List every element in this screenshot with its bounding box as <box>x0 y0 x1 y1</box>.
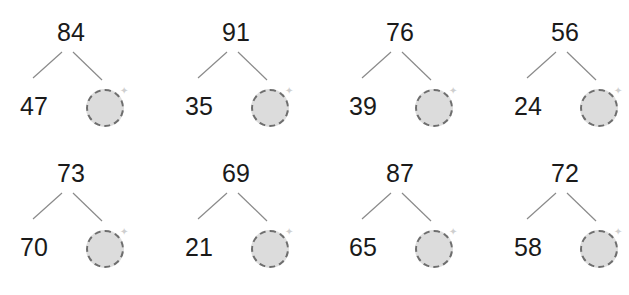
sparkle-icon: ✦ <box>120 227 128 237</box>
known-part-number: 47 <box>16 92 52 120</box>
number-bond-1: 84 47 ✦ <box>4 2 144 132</box>
whole-number: 91 <box>216 18 256 46</box>
known-part-number: 24 <box>510 92 546 120</box>
whole-number: 84 <box>51 18 91 46</box>
number-bond-2: 91 35 ✦ <box>169 2 309 132</box>
known-part-number: 65 <box>345 233 381 261</box>
known-part-number: 21 <box>181 233 217 261</box>
whole-number: 56 <box>545 18 585 46</box>
number-bond-7: 87 65 ✦ <box>333 143 473 273</box>
whole-number: 73 <box>51 159 91 187</box>
sparkle-icon: ✦ <box>614 227 622 237</box>
whole-number: 87 <box>380 159 420 187</box>
known-part-number: 35 <box>181 92 217 120</box>
number-bond-6: 69 21 ✦ <box>169 143 309 273</box>
whole-number: 76 <box>380 18 420 46</box>
whole-number: 69 <box>216 159 256 187</box>
known-part-number: 39 <box>345 92 381 120</box>
sparkle-icon: ✦ <box>120 86 128 96</box>
known-part-number: 58 <box>510 233 546 261</box>
sparkle-icon: ✦ <box>614 86 622 96</box>
missing-part-answer-circle[interactable]: ✦ <box>251 230 289 268</box>
known-part-number: 70 <box>16 233 52 261</box>
whole-number: 72 <box>545 159 585 187</box>
missing-part-answer-circle[interactable]: ✦ <box>251 89 289 127</box>
sparkle-icon: ✦ <box>285 86 293 96</box>
missing-part-answer-circle[interactable]: ✦ <box>415 230 453 268</box>
missing-part-answer-circle[interactable]: ✦ <box>580 230 618 268</box>
sparkle-icon: ✦ <box>449 86 457 96</box>
missing-part-answer-circle[interactable]: ✦ <box>86 230 124 268</box>
missing-part-answer-circle[interactable]: ✦ <box>86 89 124 127</box>
sparkle-icon: ✦ <box>285 227 293 237</box>
missing-part-answer-circle[interactable]: ✦ <box>580 89 618 127</box>
number-bond-3: 76 39 ✦ <box>333 2 473 132</box>
missing-part-answer-circle[interactable]: ✦ <box>415 89 453 127</box>
number-bond-4: 56 24 ✦ <box>498 2 629 132</box>
number-bond-8: 72 58 ✦ <box>498 143 629 273</box>
number-bond-5: 73 70 ✦ <box>4 143 144 273</box>
sparkle-icon: ✦ <box>449 227 457 237</box>
